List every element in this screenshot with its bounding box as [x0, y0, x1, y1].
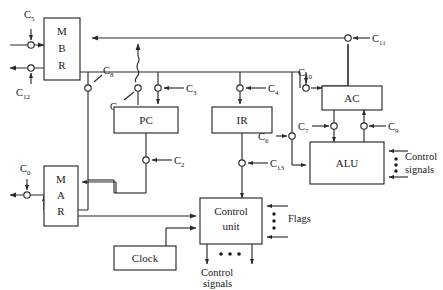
c11-branch: [345, 35, 370, 41]
mar-label-line-2: A: [57, 189, 65, 201]
c0-label-sub: 0: [27, 169, 31, 177]
c3-signal-label: C 3: [186, 83, 197, 97]
c7-label-base: C: [298, 121, 305, 132]
c3-branch: [155, 72, 184, 104]
alu-control-signals-label: Control signals: [405, 151, 437, 175]
mar-output-c0-branch: [10, 179, 44, 198]
cu-ellipsis-dot-2: [228, 252, 232, 256]
c0-label-base: C: [20, 163, 27, 174]
c7-gate: [331, 123, 337, 129]
ir-output-c13-branch: [239, 133, 268, 198]
control-unit-signals-label: Control signals: [201, 267, 233, 289]
c9-branch: [361, 110, 386, 142]
mbr-output-left-line: [10, 65, 44, 84]
cu-control-label-line-1: Control: [201, 267, 233, 278]
mbr-box: M B R: [44, 18, 80, 80]
c12-label-sub: 12: [23, 93, 31, 101]
right-bus-riser: [322, 44, 348, 88]
alu-ellipsis-dot-3: [394, 169, 397, 172]
alu-label: ALU: [336, 157, 359, 169]
cpu-structure-diagram: M B R C 5 C 12: [0, 0, 443, 290]
c8-gate: [85, 85, 91, 91]
c10-label-base: C: [298, 67, 305, 78]
control-unit-flag-inputs: [267, 206, 288, 237]
c4-gate: [237, 85, 243, 91]
alu-left-input: [292, 152, 306, 165]
clock-to-control-unit: [166, 228, 196, 246]
c1-branch: [124, 85, 141, 105]
c1-gate: [135, 85, 141, 91]
c9-label-base: C: [388, 121, 395, 132]
c2-label-base: C: [174, 155, 181, 166]
alu-box: ALU: [310, 142, 384, 184]
c10-gate: [303, 85, 309, 91]
c11-label-sub: 11: [379, 39, 386, 47]
mar-box: M A R: [44, 166, 78, 226]
control-unit-label-line-2: unit: [222, 220, 239, 232]
c7-signal-label: C 7: [298, 121, 309, 135]
c4-signal-label: C 4: [268, 83, 279, 97]
c5-label-sub: 5: [31, 15, 35, 23]
c9-signal-label: C 9: [388, 121, 399, 135]
alu-control-label-line-1: Control: [405, 151, 437, 162]
flags-ellipsis-dot-3: [272, 226, 275, 229]
control-unit-label-line-1: Control: [214, 205, 248, 217]
c5-gate: [28, 42, 34, 48]
c11-label-base: C: [372, 33, 379, 44]
clock-box: Clock: [114, 246, 176, 270]
pc-output-c2-branch: [88, 133, 172, 193]
control-unit-box: Control unit: [200, 198, 262, 244]
cu-control-label-line-2: signals: [203, 278, 232, 289]
c5-signal-label: C 5: [24, 9, 35, 23]
c0-signal-label: C 0: [20, 163, 31, 177]
c4-label-base: C: [268, 83, 275, 94]
c6-label-base: C: [258, 131, 265, 142]
c2-gate: [143, 157, 149, 163]
mbr-label-line-2: B: [58, 42, 65, 54]
c12-signal-label: C 12: [16, 87, 31, 101]
c11-gate: [345, 35, 351, 41]
c13-label-base: C: [270, 158, 277, 169]
c10-label-sub: 10: [305, 73, 313, 81]
alu-ellipsis-dot-2: [394, 163, 397, 166]
c7-label-sub: 7: [305, 127, 309, 135]
pc-label: PC: [139, 114, 152, 126]
cu-ellipsis-dot-1: [219, 252, 223, 256]
ir-label: IR: [237, 114, 249, 126]
flags-label: Flags: [288, 213, 311, 224]
c13-signal-label: C 13: [270, 158, 285, 172]
ac-label: AC: [344, 92, 359, 104]
c4-branch: [237, 72, 266, 104]
mbr-input-line: [10, 29, 44, 48]
c6-gate: [289, 133, 295, 139]
alu-ellipsis-dot-1: [394, 157, 397, 160]
c8-label-base: C: [103, 65, 110, 76]
c2-signal-label: C 2: [174, 155, 185, 169]
pc-box: PC: [114, 107, 178, 133]
c8-signal-label: C 8: [103, 65, 114, 79]
c8-label-sub: 8: [110, 71, 114, 79]
c13-label-sub: 13: [277, 164, 285, 172]
wire-crossover-hop: [135, 56, 139, 82]
control-unit-signal-outputs: [207, 244, 252, 264]
c11-signal-label: C 11: [372, 33, 386, 47]
c12-label-base: C: [16, 87, 23, 98]
c9-gate: [361, 123, 367, 129]
ac-box: AC: [322, 86, 382, 110]
mar-label-line-3: R: [57, 205, 65, 217]
c9-label-sub: 9: [395, 127, 399, 135]
flags-ellipsis-dot-1: [272, 212, 275, 215]
c13-gate: [239, 160, 245, 166]
c3-label-sub: 3: [193, 89, 197, 97]
c4-label-sub: 4: [275, 89, 279, 97]
mbr-label-line-3: R: [58, 59, 66, 71]
diagram-canvas: M B R C 5 C 12: [0, 0, 443, 290]
ir-box: IR: [212, 107, 272, 133]
c2-label-sub: 2: [181, 161, 185, 169]
alu-control-label-line-2: signals: [405, 164, 434, 175]
mbr-label-line-1: M: [57, 25, 67, 37]
c0-gate: [24, 192, 30, 198]
c7-branch: [312, 110, 337, 142]
c3-label-base: C: [186, 83, 193, 94]
flags-text: Flags: [288, 213, 311, 224]
